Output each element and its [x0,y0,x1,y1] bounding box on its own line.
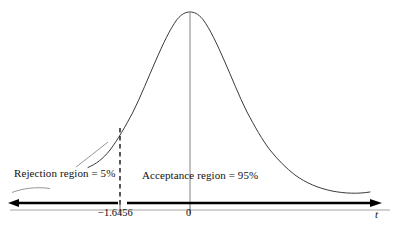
tick-label-critical-value: −1.6456 [98,208,133,219]
rejection-region-label: Rejection region = 5% [14,168,115,179]
rejection-leader-line-upper [76,142,108,167]
axis-variable-label: t [375,209,378,220]
rejection-leader-line-lower [12,188,50,193]
chart-canvas [0,0,400,230]
axis-right-arrowhead [370,199,382,207]
axis-left-arrowhead [8,199,19,207]
t-distribution-figure: Rejection region = 5% Acceptance region … [0,0,400,230]
acceptance-region-label: Acceptance region = 95% [142,170,258,181]
tick-label-zero: 0 [186,208,191,219]
bell-curve [88,12,370,193]
